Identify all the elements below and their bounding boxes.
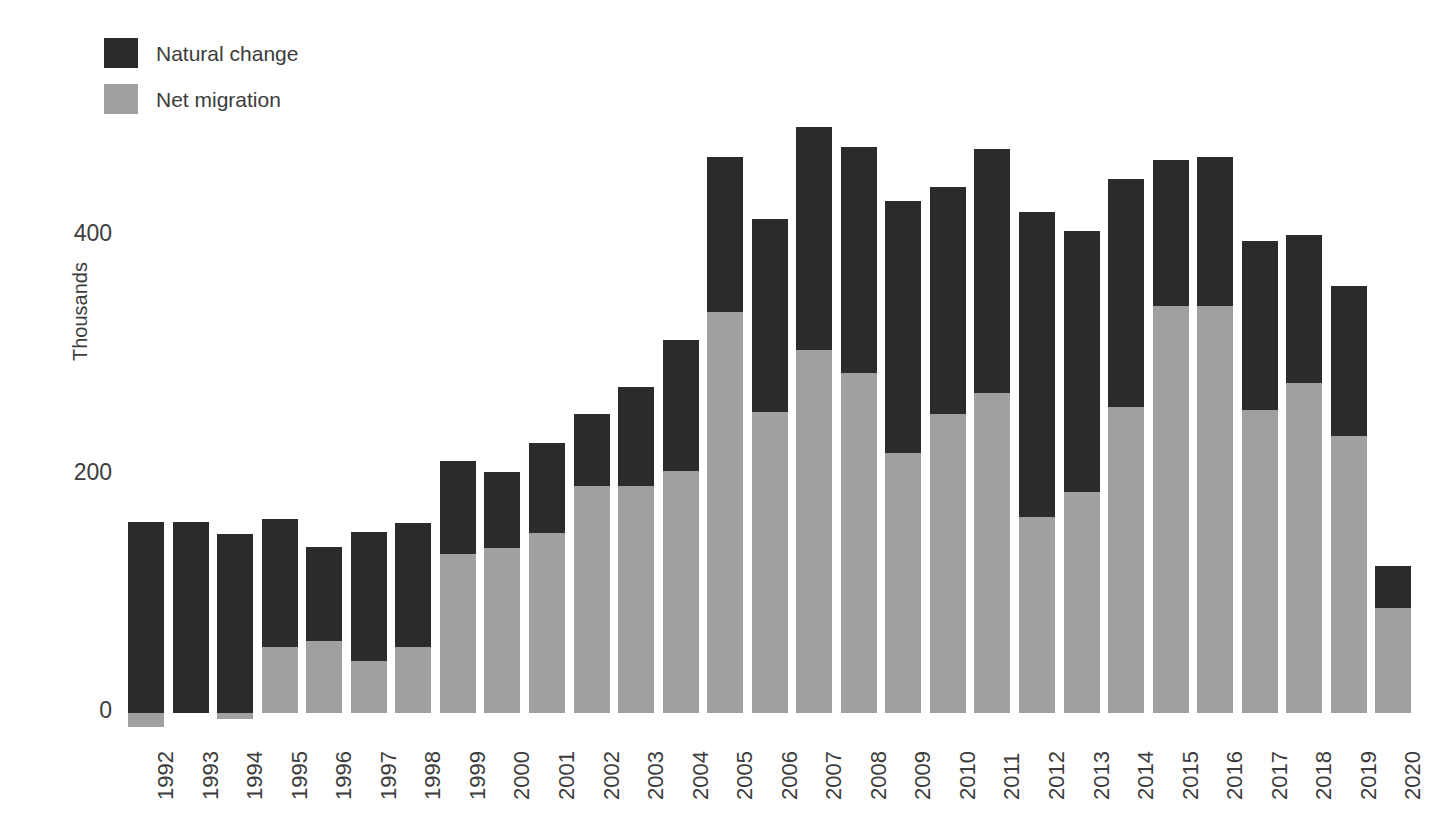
bar-segment-net-migration[interactable] [974, 393, 1010, 713]
bar-column[interactable] [1019, 0, 1055, 817]
bar-segment-natural-change[interactable] [440, 461, 476, 554]
bar-segment-natural-change[interactable] [1286, 235, 1322, 383]
bar-column[interactable] [885, 0, 921, 817]
bar-column[interactable] [128, 0, 164, 817]
plot-area: 1992199319941995199619971998199920002001… [128, 0, 1428, 817]
bar-segment-net-migration[interactable] [128, 713, 164, 727]
bar-column[interactable] [1153, 0, 1189, 817]
bar-segment-natural-change[interactable] [217, 534, 253, 713]
bar-segment-natural-change[interactable] [395, 523, 431, 647]
bar-segment-net-migration[interactable] [841, 373, 877, 713]
chart-root: Natural change Net migration Thousands 0… [0, 0, 1438, 817]
bar-column[interactable] [1331, 0, 1367, 817]
bar-segment-natural-change[interactable] [1375, 566, 1411, 608]
bar-column[interactable] [1108, 0, 1144, 817]
bar-segment-natural-change[interactable] [529, 443, 565, 532]
bar-column[interactable] [618, 0, 654, 817]
y-axis-ticks: 0200400 [0, 0, 112, 817]
bar-segment-net-migration[interactable] [1019, 517, 1055, 713]
bar-column[interactable] [484, 0, 520, 817]
bar-segment-natural-change[interactable] [974, 149, 1010, 393]
bar-segment-natural-change[interactable] [262, 519, 298, 648]
bar-column[interactable] [173, 0, 209, 817]
bar-column[interactable] [351, 0, 387, 817]
bar-segment-net-migration[interactable] [306, 641, 342, 713]
bar-column[interactable] [1375, 0, 1411, 817]
bar-column[interactable] [930, 0, 966, 817]
bar-segment-net-migration[interactable] [930, 414, 966, 713]
bar-segment-natural-change[interactable] [1331, 286, 1367, 436]
bar-segment-net-migration[interactable] [618, 486, 654, 713]
bar-column[interactable] [663, 0, 699, 817]
bar-segment-net-migration[interactable] [262, 647, 298, 713]
bar-segment-net-migration[interactable] [1064, 492, 1100, 713]
bar-segment-net-migration[interactable] [663, 471, 699, 713]
bar-segment-net-migration[interactable] [1375, 608, 1411, 713]
bar-segment-net-migration[interactable] [529, 533, 565, 713]
bar-segment-net-migration[interactable] [1153, 306, 1189, 713]
bar-segment-natural-change[interactable] [707, 157, 743, 312]
bar-column[interactable] [529, 0, 565, 817]
bar-segment-natural-change[interactable] [930, 187, 966, 414]
bar-segment-natural-change[interactable] [484, 472, 520, 548]
bar-column[interactable] [974, 0, 1010, 817]
bar-segment-natural-change[interactable] [885, 201, 921, 453]
y-tick-label: 200 [22, 461, 112, 484]
bar-column[interactable] [306, 0, 342, 817]
bar-column[interactable] [1286, 0, 1322, 817]
bar-segment-natural-change[interactable] [1019, 212, 1055, 517]
bar-column[interactable] [796, 0, 832, 817]
bar-segment-natural-change[interactable] [306, 547, 342, 641]
bar-column[interactable] [752, 0, 788, 817]
bar-column[interactable] [707, 0, 743, 817]
bar-segment-net-migration[interactable] [885, 453, 921, 713]
bar-segment-net-migration[interactable] [351, 661, 387, 713]
bar-segment-natural-change[interactable] [1242, 241, 1278, 410]
y-tick-label: 0 [22, 699, 112, 722]
bar-segment-net-migration[interactable] [395, 647, 431, 713]
bar-column[interactable] [1197, 0, 1233, 817]
bar-segment-net-migration[interactable] [574, 486, 610, 713]
bar-segment-net-migration[interactable] [1286, 383, 1322, 713]
bar-segment-net-migration[interactable] [440, 554, 476, 713]
bar-segment-net-migration[interactable] [217, 713, 253, 719]
bar-segment-natural-change[interactable] [1064, 231, 1100, 492]
bar-segment-net-migration[interactable] [1108, 407, 1144, 713]
bar-segment-natural-change[interactable] [618, 387, 654, 486]
bar-segment-natural-change[interactable] [1108, 179, 1144, 407]
bar-segment-natural-change[interactable] [574, 414, 610, 487]
bar-segment-natural-change[interactable] [752, 219, 788, 412]
bar-segment-net-migration[interactable] [796, 350, 832, 713]
bar-column[interactable] [440, 0, 476, 817]
bar-segment-net-migration[interactable] [707, 312, 743, 713]
y-tick-label: 400 [22, 222, 112, 245]
bar-segment-net-migration[interactable] [1331, 436, 1367, 713]
bar-segment-net-migration[interactable] [484, 548, 520, 713]
bar-segment-natural-change[interactable] [841, 147, 877, 374]
bar-segment-net-migration[interactable] [752, 412, 788, 713]
bar-column[interactable] [262, 0, 298, 817]
bar-segment-natural-change[interactable] [1153, 160, 1189, 307]
bar-segment-natural-change[interactable] [663, 340, 699, 471]
bar-segment-natural-change[interactable] [128, 522, 164, 713]
bar-segment-net-migration[interactable] [1197, 306, 1233, 713]
bar-column[interactable] [1064, 0, 1100, 817]
x-tick-label: 2020 [1402, 751, 1424, 800]
bar-column[interactable] [574, 0, 610, 817]
bar-column[interactable] [841, 0, 877, 817]
bar-segment-natural-change[interactable] [1197, 157, 1233, 306]
bar-column[interactable] [1242, 0, 1278, 817]
bar-column[interactable] [217, 0, 253, 817]
bar-segment-natural-change[interactable] [351, 532, 387, 661]
bar-segment-natural-change[interactable] [173, 522, 209, 713]
bar-segment-natural-change[interactable] [796, 127, 832, 350]
bar-column[interactable] [395, 0, 431, 817]
bar-segment-net-migration[interactable] [1242, 410, 1278, 713]
